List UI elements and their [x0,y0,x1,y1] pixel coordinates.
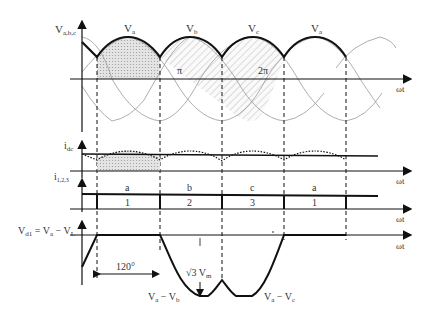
diode-number-2: 2 [187,197,192,208]
angle-2pi: 2π [258,65,268,76]
phase-letter-c: c [250,182,255,193]
diode-number-1b: 1 [312,197,317,208]
dc-current-plot [70,142,410,178]
phase-label-va-2: Va [311,22,323,36]
angle-pi: π [177,65,182,76]
phase-label-vb: Vb [186,22,198,36]
y-label-idc: idc [64,140,73,153]
x-label-i123: ωt [396,214,405,224]
diode-voltage-plot [70,222,410,296]
phase-label-va-1: Va [124,22,136,36]
y-label-vd1: Vd1 = Va − VL [18,225,75,238]
rectifier-waveform-diagram: Va,b,c Va Vb Vc Va π 2π ωt idc ωt i1,2,3 [0,0,422,316]
phase-letter-a1: a [125,182,130,193]
diode-number-3: 3 [250,197,255,208]
phase-letter-b: b [187,182,192,193]
interval-120deg: 120° [116,261,135,272]
y-label-vabc: Va,b,c [55,23,76,37]
conduction-area-va [97,37,160,79]
diode-current-plot [70,180,410,212]
phase-letter-a2: a [312,182,317,193]
phase-voltage-plot [70,22,410,132]
diode-number-1a: 1 [125,197,130,208]
segment-va-vb: Va − Vb [148,291,180,304]
x-label-vd1: ωt [396,241,405,251]
peak-sqrt3-vm: √3 Vm [186,267,212,280]
x-label-top: ωt [396,84,405,94]
phase-label-vc: Vc [248,22,259,36]
x-label-idc: ωt [396,176,405,186]
y-label-i123: i1,2,3 [54,171,69,183]
segment-va-vc: Va − Vc [264,291,295,304]
